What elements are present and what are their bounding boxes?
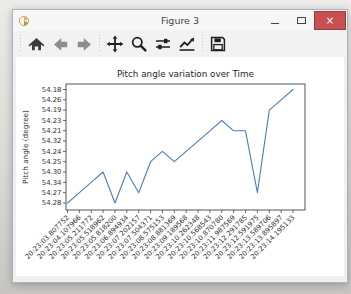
y-tick-label: 54.21 <box>42 127 62 135</box>
navigation-toolbar <box>13 31 347 57</box>
desktop: { "window": { "title": "Figure 3", "clos… <box>0 0 351 294</box>
zoom-button[interactable] <box>128 33 150 55</box>
minimize-icon <box>271 23 279 25</box>
figure-chart[interactable]: 54.2854.2754.3454.3054.2554.2454.3254.21… <box>16 57 342 270</box>
y-tick-label: 54.19 <box>42 106 62 114</box>
y-tick-label: 54.34 <box>42 179 62 187</box>
edit-axes-button[interactable] <box>176 33 198 55</box>
pan-icon <box>106 35 124 53</box>
y-tick-label: 54.26 <box>42 96 62 104</box>
toolbar-separator <box>99 35 100 53</box>
sliders-icon <box>154 35 172 53</box>
title-bar[interactable]: Figure 3 × <box>13 10 347 31</box>
y-tick-label: 54.25 <box>42 158 62 166</box>
y-axis-label: Pitch angle (degree) <box>21 110 30 184</box>
magnifier-icon <box>130 35 148 53</box>
y-tick-label: 54.32 <box>42 137 62 145</box>
y-tick-label: 54.18 <box>42 86 62 94</box>
back-button[interactable] <box>49 33 71 55</box>
y-tick-label: 54.24 <box>42 148 62 156</box>
plot-area[interactable] <box>66 84 305 210</box>
maximize-icon <box>297 17 306 24</box>
home-icon <box>28 36 45 53</box>
figure-window: Figure 3 × <box>12 9 348 283</box>
configure-subplots-button[interactable] <box>152 33 174 55</box>
save-floppy-icon <box>209 35 227 53</box>
y-tick-label: 54.30 <box>42 168 62 176</box>
line-chart-icon <box>178 35 196 53</box>
minimize-button[interactable] <box>262 11 288 30</box>
back-arrow-icon <box>52 36 69 53</box>
toolbar-separator <box>20 35 21 53</box>
home-button[interactable] <box>25 33 47 55</box>
forward-arrow-icon <box>76 36 93 53</box>
forward-button[interactable] <box>73 33 95 55</box>
y-tick-label: 54.23 <box>42 117 62 125</box>
save-button[interactable] <box>207 33 229 55</box>
figure-canvas[interactable]: 54.2854.2754.3454.3054.2554.2454.3254.21… <box>16 57 344 276</box>
close-icon: × <box>326 15 334 26</box>
close-button[interactable]: × <box>314 11 346 30</box>
maximize-button[interactable] <box>288 11 314 30</box>
chart-title: Pitch angle variation over Time <box>117 69 254 79</box>
y-tick-label: 54.27 <box>42 189 62 197</box>
pan-button[interactable] <box>104 33 126 55</box>
y-tick-label: 54.28 <box>42 199 62 207</box>
matplotlib-icon <box>18 15 30 27</box>
toolbar-separator <box>202 35 203 53</box>
